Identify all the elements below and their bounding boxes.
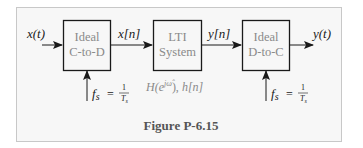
c2d-block: Ideal C-to-D xyxy=(64,21,111,71)
lti-response-label: H(ejω̂), h[n] xyxy=(145,79,204,94)
svg-text:1: 1 xyxy=(122,83,126,92)
svg-text:=: = xyxy=(286,87,293,101)
svg-text:1: 1 xyxy=(301,83,305,92)
lti-line1: LTI xyxy=(168,30,186,44)
block-diagram: x(t) Ideal C-to-D x[n] LTI System H(ejω̂… xyxy=(0,0,363,148)
impulse-response: h[n] xyxy=(182,80,204,94)
c2d-line1: Ideal xyxy=(75,30,101,44)
lti-line2: System xyxy=(159,45,196,59)
filtered-signal-label: y[n] xyxy=(206,26,230,41)
d2c-block: Ideal D-to-C xyxy=(243,21,290,71)
lti-block: LTI System xyxy=(154,21,202,71)
c2d-line2: C-to-D xyxy=(69,45,104,59)
input-signal-label: x(t) xyxy=(26,26,45,41)
output-signal-label: y(t) xyxy=(311,26,331,41)
figure-caption: Figure P-6.15 xyxy=(144,118,219,133)
d2c-line2: D-to-C xyxy=(248,45,283,59)
svg-text:=: = xyxy=(107,87,114,101)
sampled-signal-label: x[n] xyxy=(117,26,140,41)
freq-response-close: ), xyxy=(172,80,182,94)
d2c-line1: Ideal xyxy=(254,30,280,44)
freq-response-base: H(e xyxy=(145,80,165,94)
